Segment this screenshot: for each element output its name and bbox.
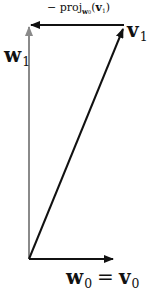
v1-label: v1 [127,20,148,40]
neg-projection-label: − projw0(v1) [47,2,110,13]
v0-letter: v [119,265,131,289]
v0-index: 0 [132,276,140,291]
equals-sign: = [97,265,114,289]
w1-letter: w [4,43,21,67]
w0-equals-v0-label: w0=v0 [66,267,139,287]
proj-vector-index: 1 [102,7,106,14]
proj-close-paren: ) [106,1,110,14]
v1-index: 1 [140,29,148,44]
w0-letter: w [66,265,83,289]
proj-subscript: w0 [82,7,91,16]
w1-label: w1 [4,45,30,65]
v1-letter: v [127,18,139,42]
proj-prefix: − proj [47,1,82,14]
w1-index: 1 [22,54,30,69]
v1-vector-arrow [29,29,123,259]
proj-subscript-index: 0 [88,9,91,15]
proj-vector-letter: v [96,1,102,14]
w0-index: 0 [84,276,92,291]
